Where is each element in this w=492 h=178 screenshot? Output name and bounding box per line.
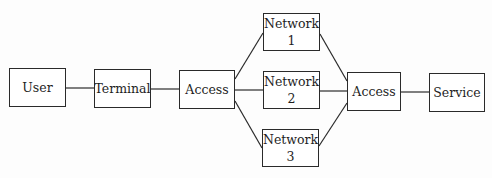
edge-network-3-to-access-right [319,103,347,146]
edge-network-1-to-access-right [320,34,347,81]
node-label: User [22,79,52,96]
node-access-left: Access [179,70,235,109]
node-label: Service [433,84,480,101]
node-access-right: Access [347,72,401,111]
node-terminal: Terminal [94,69,151,108]
node-label: Network 1 [264,15,319,49]
edge-access-left-to-network-1 [235,33,263,79]
connection-lines [0,0,492,178]
node-network-1: Network 1 [263,13,320,51]
node-label: Network 2 [264,73,319,107]
edge-access-left-to-network-3 [235,101,262,148]
node-user: User [9,68,66,107]
node-service: Service [429,73,485,112]
node-label: Terminal [94,80,150,97]
node-network-3: Network 3 [262,129,319,167]
node-label: Access [352,83,395,100]
node-label: Network 3 [263,131,318,165]
node-network-2: Network 2 [263,71,320,109]
node-label: Access [185,81,228,98]
network-diagram: User Terminal Access Network 1 Network 2… [0,0,492,178]
